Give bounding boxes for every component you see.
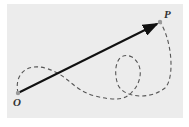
point-p <box>158 20 162 24</box>
diagram-canvas <box>0 0 189 127</box>
point-o <box>16 91 20 95</box>
label-endpoint: P <box>164 9 171 20</box>
displacement-diagram: O P <box>0 0 189 127</box>
diagram-background <box>7 4 183 118</box>
label-origin: O <box>13 97 21 108</box>
